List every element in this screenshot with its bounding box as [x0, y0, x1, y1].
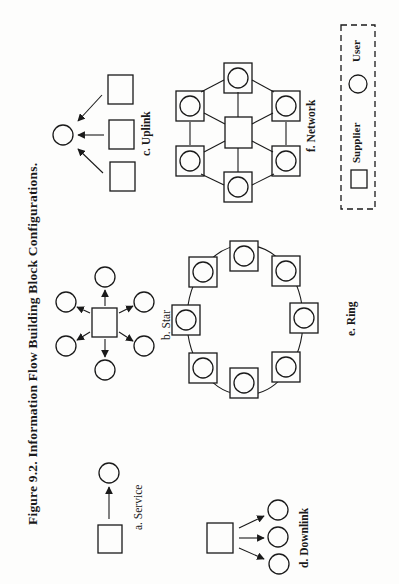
user-icon: [53, 125, 73, 145]
node-icon: [172, 305, 200, 335]
user-icon: [134, 292, 154, 312]
supplier-icon: [207, 523, 233, 553]
panel-uplink: [53, 75, 135, 191]
node-icon: [224, 63, 252, 93]
user-icon: [268, 500, 288, 520]
node-icon: [272, 146, 300, 176]
node-icon: [224, 172, 252, 202]
node-icon: [230, 241, 258, 271]
supplier-icon: [109, 120, 134, 149]
caption-star: b. Star: [161, 310, 173, 340]
supplier-legend-icon: [351, 170, 367, 188]
legend-label-supplier: Supplier: [351, 123, 362, 163]
node-icon: [272, 352, 300, 382]
caption-ring: e. Ring: [346, 302, 358, 337]
caption-service: a. Service: [133, 485, 145, 530]
supplier-icon: [225, 117, 252, 148]
node-icon: [176, 146, 204, 176]
user-icon: [56, 292, 76, 312]
arrow-icon: [77, 332, 90, 340]
supplier-icon: [98, 525, 122, 553]
arrow-icon: [119, 306, 133, 313]
figure-page: Figure 9.2. Information Flow Building Bl…: [0, 0, 399, 584]
panel-star: [56, 267, 154, 380]
arrow-icon: [77, 307, 90, 313]
node-icon: [230, 368, 258, 398]
legend-label-user: User: [351, 40, 362, 62]
node-icon: [176, 91, 204, 121]
user-icon: [99, 463, 119, 483]
caption-network: f. Network: [306, 100, 318, 152]
arrow-icon: [119, 332, 133, 341]
panel-downlink: [207, 500, 289, 574]
node-icon: [189, 353, 217, 383]
arrow-icon: [78, 149, 103, 173]
arrow-icon: [239, 516, 264, 528]
panel-ring: [172, 241, 318, 398]
arrow-icon: [78, 95, 102, 121]
diagram-canvas: [0, 0, 399, 584]
node-icon: [272, 256, 300, 286]
node-icon: [189, 257, 217, 287]
user-icon: [95, 267, 115, 287]
supplier-icon: [92, 308, 117, 337]
node-icon: [290, 303, 318, 333]
node-icon: [272, 91, 300, 121]
supplier-icon: [108, 75, 133, 104]
caption-downlink: d. Downlink: [299, 508, 311, 568]
user-icon: [134, 336, 154, 356]
user-legend-icon: [349, 75, 367, 93]
arrow-icon: [239, 548, 264, 559]
user-icon: [269, 554, 289, 574]
panel-service: [98, 463, 122, 553]
user-icon: [56, 336, 76, 356]
panel-network: [176, 63, 300, 202]
supplier-icon: [110, 162, 135, 191]
caption-uplink: c. Uplink: [141, 111, 153, 156]
user-icon: [268, 527, 288, 547]
user-icon: [95, 360, 115, 380]
